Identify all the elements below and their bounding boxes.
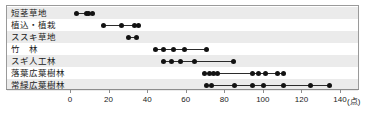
data-point [161, 59, 166, 64]
x-axis-tick-label: 20 [104, 95, 113, 104]
data-point [182, 47, 187, 52]
data-point [256, 71, 261, 76]
series-row: 植込・植栽 [7, 19, 358, 31]
x-axis-tick [147, 89, 148, 93]
series-row: 竹 林 [7, 43, 358, 55]
x-axis-tick [224, 89, 225, 93]
data-point [126, 35, 131, 40]
data-point [308, 83, 313, 88]
x-axis-tick-label: 40 [143, 95, 152, 104]
series-row: スギ人工林 [7, 55, 358, 67]
x-axis-tick-label: 120 [295, 95, 308, 104]
data-point [281, 83, 286, 88]
data-point [327, 83, 332, 88]
series-row-label: スギ人工林 [11, 55, 56, 67]
data-point [281, 71, 286, 76]
data-point [192, 59, 197, 64]
x-axis-tick [263, 89, 264, 93]
data-point [275, 71, 280, 76]
chart-container: 短茎草地植込・植栽ススキ草地竹 林スギ人工林落葉広葉樹林常緑広葉樹林 02040… [0, 0, 365, 115]
data-point [90, 11, 95, 16]
x-axis: 020406080100120140 (点) [6, 89, 359, 115]
data-point [134, 35, 139, 40]
x-axis-line [6, 89, 359, 90]
data-point [231, 59, 236, 64]
data-point [169, 59, 174, 64]
data-point [101, 23, 106, 28]
data-point [204, 83, 209, 88]
data-point [250, 83, 255, 88]
x-axis-tick [109, 89, 110, 93]
series-row-label: 短茎草地 [11, 7, 47, 19]
x-axis-tick [301, 89, 302, 93]
data-point [119, 23, 124, 28]
series-row: 落葉広葉樹林 [7, 67, 358, 79]
series-row-label: 植込・植栽 [11, 19, 56, 31]
series-row-label: ススキ草地 [11, 31, 56, 43]
series-row: 短茎草地 [7, 7, 358, 19]
series-range-line [164, 61, 233, 62]
data-point [171, 47, 176, 52]
series-row: ススキ草地 [7, 31, 358, 43]
data-point [74, 11, 79, 16]
x-axis-tick-label: 0 [68, 95, 72, 104]
data-point [209, 83, 214, 88]
x-axis-tick-label: 100 [256, 95, 269, 104]
data-point [263, 71, 268, 76]
x-axis-tick-label: 80 [220, 95, 229, 104]
data-point [204, 47, 209, 52]
data-point [261, 83, 266, 88]
series-row-label: 落葉広葉樹林 [11, 67, 65, 79]
data-point [136, 23, 141, 28]
data-point [250, 71, 255, 76]
series-row-label: 竹 林 [11, 43, 38, 55]
x-axis-unit-label: (点) [347, 95, 360, 106]
x-axis-tick-label: 140 [333, 95, 346, 104]
data-point [202, 71, 207, 76]
x-axis-tick [186, 89, 187, 93]
x-axis-tick [340, 89, 341, 93]
x-axis-tick [70, 89, 71, 93]
data-point [178, 59, 183, 64]
data-point [232, 83, 237, 88]
x-axis-tick-label: 60 [181, 95, 190, 104]
data-point [215, 71, 220, 76]
data-point [153, 47, 158, 52]
data-point [161, 47, 166, 52]
